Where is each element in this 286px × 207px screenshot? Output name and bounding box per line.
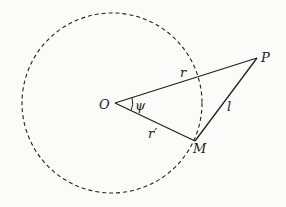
label-psi: ψ (135, 98, 146, 113)
dashed-circle (22, 13, 202, 193)
segment-PM (195, 58, 257, 141)
label-M: M (192, 141, 207, 156)
angle-arc (131, 98, 133, 111)
label-P: P (260, 50, 270, 65)
diagram: O ψ r r′ l P M (0, 0, 286, 207)
label-O: O (99, 97, 110, 112)
label-r-prime: r′ (148, 126, 157, 141)
label-r: r (180, 65, 187, 80)
label-l: l (227, 99, 231, 114)
